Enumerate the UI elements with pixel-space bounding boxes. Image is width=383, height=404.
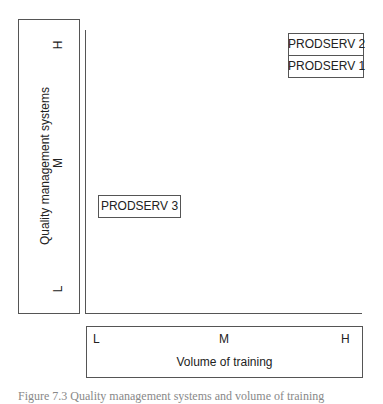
x-axis-title: Volume of training [86,355,363,369]
y-axis-title: Quality management systems [38,86,52,246]
x-tick-mid: M [219,332,229,346]
y-axis-line [85,30,86,314]
x-tick-high: H [341,332,350,346]
y-tick-high: H [51,38,65,52]
item-label-prodserv-2: PRODSERV 2 [288,37,364,51]
y-tick-low: L [51,282,65,296]
item-label-prodserv-1: PRODSERV 1 [288,59,364,73]
x-tick-low: L [93,332,100,346]
item-label-prodserv-3: PRODSERV 3 [98,199,181,213]
y-tick-mid: M [51,156,65,170]
x-axis-line [85,313,362,314]
figure-caption: Figure 7.3 Quality management systems an… [18,389,324,404]
